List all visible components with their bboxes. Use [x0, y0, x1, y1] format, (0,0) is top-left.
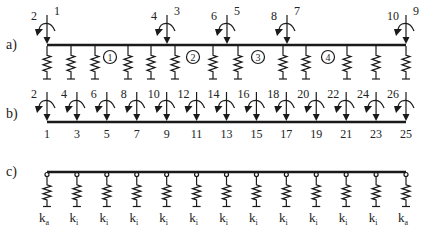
translation-dof-label: 7: [134, 127, 140, 141]
node-dof-symbol: [155, 15, 175, 44]
spring: [43, 46, 51, 79]
panel-label-b: b): [6, 106, 18, 122]
rotation-dof-label: 18: [267, 87, 279, 101]
translation-dof-label: 23: [370, 127, 382, 141]
translation-dof-label: 1: [54, 4, 60, 18]
translation-arrow-icon: [133, 114, 140, 121]
spring: [133, 177, 141, 207]
beam-on-elastic-foundation-diagram: a)214365871091234 b)21436587109121114131…: [0, 0, 426, 230]
translation-arrow-icon: [224, 37, 231, 44]
translation-arrow-icon: [44, 114, 51, 121]
translation-arrow-icon: [223, 114, 230, 121]
rotation-dof-label: 4: [151, 9, 157, 23]
spring: [342, 177, 350, 207]
spring: [402, 46, 410, 79]
stiffness-label: ki: [189, 210, 199, 227]
spring: [234, 46, 242, 79]
rotation-dof-label: 26: [387, 87, 399, 101]
spring: [252, 177, 260, 207]
rotation-dof-label: 20: [297, 87, 309, 101]
translation-arrow-icon: [403, 37, 410, 44]
rotation-dof-label: 6: [91, 87, 97, 101]
stiffness-label: ki: [219, 210, 229, 227]
panel-label-c: c): [6, 164, 17, 180]
translation-arrow-icon: [373, 114, 380, 121]
translation-dof-label: 15: [250, 127, 262, 141]
spring: [343, 46, 351, 79]
panel-b: b)21436587109121114131615181720192221242…: [6, 87, 414, 141]
spring: [91, 46, 99, 79]
rotation-dof-label: 6: [211, 9, 217, 23]
stiffness-label: ki: [70, 210, 80, 227]
stiffness-label: ki: [249, 210, 259, 227]
stiffness-label: ki: [279, 210, 289, 227]
node-dof-symbol: [35, 15, 55, 44]
rotation-dof-label: 10: [148, 87, 160, 101]
node-dof-symbol: [65, 92, 85, 121]
translation-arrow-icon: [103, 114, 110, 121]
element-number: 3: [252, 51, 265, 64]
spring: [67, 46, 75, 79]
rotation-dof-label: 10: [387, 9, 399, 23]
spring: [209, 46, 217, 79]
rotation-dof-label: 22: [327, 87, 339, 101]
spring: [103, 177, 111, 207]
node-dof-symbol: [35, 92, 55, 121]
stiffness-label: ki: [339, 210, 349, 227]
translation-arrow-icon: [403, 114, 410, 121]
node-dof-symbol: [95, 92, 115, 121]
element-number: 2: [187, 51, 200, 64]
translation-arrow-icon: [284, 37, 291, 44]
panel-a: a)214365871091234: [6, 4, 419, 79]
stiffness-label: ki: [369, 210, 379, 227]
rotation-dof-label: 4: [61, 87, 67, 101]
translation-arrow-icon: [253, 114, 260, 121]
rotation-dof-label: 16: [237, 87, 249, 101]
rotation-dof-label: 2: [31, 87, 37, 101]
element-number: 1: [104, 51, 117, 64]
translation-arrow-icon: [163, 114, 170, 121]
translation-dof-label: 3: [74, 127, 80, 141]
translation-dof-label: 19: [310, 127, 322, 141]
translation-arrow-icon: [44, 37, 51, 44]
translation-dof-label: 21: [340, 127, 352, 141]
translation-dof-label: 17: [280, 127, 292, 141]
spring: [73, 177, 81, 207]
translation-dof-label: 9: [413, 4, 419, 18]
translation-dof-label: 25: [400, 127, 412, 141]
node-dof-symbol: [125, 92, 145, 121]
spring: [312, 177, 320, 207]
translation-dof-label: 13: [221, 127, 233, 141]
spring: [279, 46, 287, 79]
spring: [372, 177, 380, 207]
panel-c: c)kakikikikikikikikikikikika: [6, 164, 410, 227]
translation-dof-label: 7: [294, 4, 300, 18]
rotation-dof-label: 24: [357, 87, 369, 101]
rotation-dof-label: 2: [31, 9, 37, 23]
stiffness-label: ki: [309, 210, 319, 227]
spring: [193, 177, 201, 207]
element-label: 2: [191, 52, 196, 63]
translation-dof-label: 9: [164, 127, 170, 141]
stiffness-label: ki: [99, 210, 109, 227]
translation-dof-label: 11: [191, 127, 203, 141]
translation-arrow-icon: [313, 114, 320, 121]
stiffness-label: ka: [39, 210, 50, 227]
translation-dof-label: 5: [104, 127, 110, 141]
spring: [302, 46, 310, 79]
element-number: 4: [322, 51, 335, 64]
spring: [163, 177, 171, 207]
spring: [372, 46, 380, 79]
stiffness-label: ki: [159, 210, 169, 227]
panel-label-a: a): [6, 37, 17, 53]
stiffness-label: ka: [398, 210, 409, 227]
translation-arrow-icon: [193, 114, 200, 121]
rotation-dof-label: 8: [121, 87, 127, 101]
element-label: 1: [108, 52, 113, 63]
translation-arrow-icon: [343, 114, 350, 121]
translation-dof-label: 1: [44, 127, 50, 141]
node-dof-symbol: [215, 15, 235, 44]
translation-arrow-icon: [283, 114, 290, 121]
spring: [223, 177, 231, 207]
spring: [282, 177, 290, 207]
